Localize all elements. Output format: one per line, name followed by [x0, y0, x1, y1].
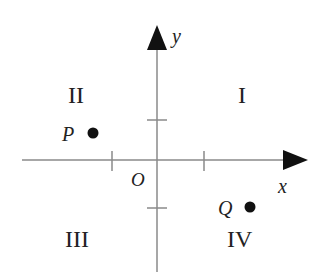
- quadrant-label-iii: III: [65, 227, 89, 251]
- quadrant-label-ii: II: [68, 83, 84, 107]
- x-axis-arrow-icon: [283, 150, 308, 170]
- point-p-label: P: [62, 124, 74, 144]
- coordinate-plane-diagram: y x O II I III IV P Q: [0, 0, 332, 277]
- point-q-label: Q: [218, 198, 232, 218]
- origin-label: O: [131, 170, 145, 189]
- point-q-marker: [245, 202, 256, 213]
- x-axis-label: x: [278, 176, 287, 196]
- y-axis-label: y: [172, 26, 181, 46]
- quadrant-label-i: I: [238, 83, 246, 107]
- point-p-marker: [88, 128, 99, 139]
- quadrant-label-iv: IV: [227, 227, 252, 251]
- y-axis-arrow-icon: [147, 25, 167, 50]
- axes-graphic: [0, 0, 332, 277]
